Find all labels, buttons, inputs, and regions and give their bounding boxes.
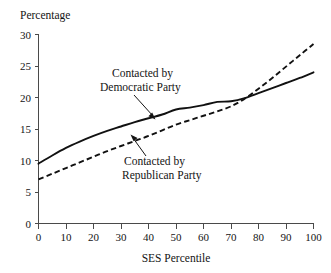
y-tick-label-25: 25 (20, 60, 32, 72)
annotation-republican-line1: Contacted by (124, 155, 185, 168)
annotation-democratic-leader-line (134, 95, 153, 116)
x-tick-labels: 0 10 20 30 40 50 60 70 80 90 100 (36, 231, 323, 243)
x-tick-label-90: 90 (281, 231, 293, 243)
x-tick-label-80: 80 (253, 231, 265, 243)
x-tick-label-40: 40 (143, 231, 155, 243)
x-tick-marks (39, 224, 314, 229)
annotation-republican-leader-line (133, 138, 146, 156)
y-tick-label-0: 0 (26, 218, 32, 230)
annotation-republican-line2: Republican Party (122, 169, 202, 182)
axes (39, 35, 314, 224)
chart-figure: 0 5 10 15 20 25 30 0 10 20 30 (0, 0, 331, 273)
y-tick-label-15: 15 (20, 123, 32, 135)
x-tick-label-0: 0 (36, 231, 42, 243)
y-tick-label-5: 5 (26, 186, 32, 198)
x-tick-label-20: 20 (88, 231, 100, 243)
x-tick-label-60: 60 (198, 231, 210, 243)
x-tick-label-10: 10 (61, 231, 73, 243)
annotation-democratic-line1: Contacted by (112, 67, 173, 80)
y-tick-label-30: 30 (20, 29, 32, 41)
y-tick-marks (35, 35, 39, 224)
x-tick-label-30: 30 (116, 231, 128, 243)
x-tick-label-70: 70 (226, 231, 238, 243)
y-axis-title: Percentage (20, 9, 70, 22)
y-tick-label-20: 20 (20, 92, 32, 104)
x-tick-label-50: 50 (171, 231, 183, 243)
x-axis-title: SES Percentile (142, 252, 211, 264)
y-tick-label-10: 10 (20, 155, 32, 167)
line-chart: 0 5 10 15 20 25 30 0 10 20 30 (0, 0, 331, 273)
annotation-democratic-line2: Democratic Party (100, 81, 181, 94)
y-tick-labels: 0 5 10 15 20 25 30 (20, 29, 32, 230)
annotation-republican: Contacted by Republican Party (122, 135, 202, 183)
x-tick-label-100: 100 (305, 231, 322, 243)
